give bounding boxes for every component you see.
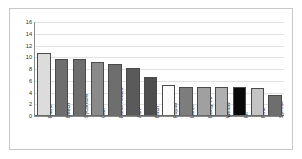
y-axis-tick-label: 10 [10, 54, 32, 60]
bar[interactable] [55, 59, 68, 116]
y-axis-tick-label: 14 [10, 31, 32, 37]
chart-card: [MPa] Tangential shear strength perpendi… [9, 8, 293, 150]
bar[interactable] [73, 59, 86, 116]
y-axis-tick-label: 6 [10, 78, 32, 84]
bar-series: PlaneBeechSycamoreOakFalse AcaciaAshBirc… [35, 22, 284, 116]
y-axis-tick-label: 8 [10, 66, 32, 72]
bar[interactable] [179, 87, 192, 116]
y-axis-tick-label: 0 [10, 113, 32, 119]
bar[interactable] [37, 53, 50, 116]
bar[interactable] [108, 64, 121, 116]
bar[interactable] [268, 95, 281, 116]
x-axis-line [35, 115, 284, 116]
y-axis-tick-label: 2 [10, 101, 32, 107]
y-axis-tick-label: 12 [10, 43, 32, 49]
bar[interactable] [144, 77, 157, 116]
bar[interactable] [91, 62, 104, 116]
y-axis-tick-label: 16 [10, 19, 32, 25]
bar[interactable] [126, 68, 139, 116]
y-axis-tick-label: 4 [10, 90, 32, 96]
bar[interactable] [162, 85, 175, 116]
bar[interactable] [251, 88, 264, 116]
bar[interactable] [215, 87, 228, 116]
bar[interactable] [197, 87, 210, 116]
plot-area: 1614121086420 PlaneBeechSycamoreOakFalse… [34, 22, 283, 117]
bar[interactable] [233, 87, 246, 116]
